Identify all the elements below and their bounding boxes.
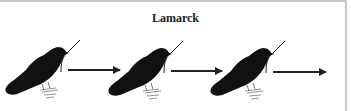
lamarck-diagram [0,0,351,111]
